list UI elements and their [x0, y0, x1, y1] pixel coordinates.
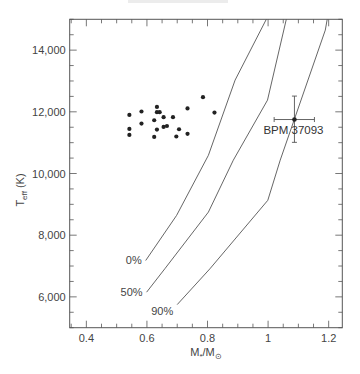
bpm37093-point: BPM 37093	[263, 96, 323, 142]
y-tick-label: 6,000	[38, 291, 66, 303]
y-axis-title: Teff (K)	[14, 173, 29, 206]
white-dwarf-point	[165, 124, 169, 128]
tick-labels: 0.40.60.811.26,0008,00010,00012,00014,00…	[32, 44, 336, 344]
y-tick-label: 14,000	[32, 44, 66, 56]
curve-label: 50%	[121, 286, 143, 298]
curve-50pct	[147, 19, 287, 292]
axis-ticks	[70, 19, 343, 327]
y-tick-label: 12,000	[32, 106, 66, 118]
white-dwarf-point	[158, 110, 162, 114]
white-dwarf-point	[152, 118, 156, 122]
white-dwarf-point	[171, 115, 175, 119]
x-tick-label: 1.2	[321, 332, 336, 344]
white-dwarf-point	[177, 127, 181, 131]
y-tick-label: 10,000	[32, 168, 66, 180]
white-dwarf-point	[127, 127, 131, 131]
x-tick-label: 0.4	[79, 332, 94, 344]
white-dwarf-point	[152, 135, 156, 139]
bpm37093-marker	[292, 117, 297, 122]
curve-label: 90%	[151, 305, 173, 317]
plot-frame	[70, 19, 343, 327]
x-tick-label: 1	[265, 332, 271, 344]
white-dwarf-point	[161, 115, 165, 119]
x-tick-label: 0.6	[139, 332, 154, 344]
curve-label: 0%	[126, 254, 142, 266]
white-dwarf-point	[139, 109, 143, 113]
y-tick-label: 8,000	[38, 229, 66, 241]
white-dwarf-point	[155, 127, 159, 131]
curve-90pct	[177, 19, 327, 304]
x-axis-title: M*/M⊙	[190, 346, 222, 361]
white-dwarf-point	[185, 132, 189, 136]
white-dwarf-point	[127, 133, 131, 137]
white-dwarf-point	[201, 95, 205, 99]
chart-svg: 0%50%90% BPM 37093 0.40.60.811.26,0008,0…	[0, 0, 360, 374]
curve-0pct	[146, 19, 267, 260]
white-dwarf-point	[139, 121, 143, 125]
crystallization-curves: 0%50%90%	[121, 19, 328, 316]
x-tick-label: 0.8	[200, 332, 215, 344]
data-points	[127, 95, 216, 139]
white-dwarf-point	[155, 105, 159, 109]
white-dwarf-point	[212, 110, 216, 114]
white-dwarf-point	[185, 106, 189, 110]
bpm37093-label: BPM 37093	[263, 124, 323, 136]
white-dwarf-point	[174, 134, 178, 138]
white-dwarf-point	[127, 113, 131, 117]
